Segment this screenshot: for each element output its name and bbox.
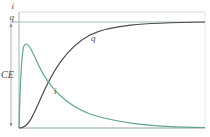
q-curve-label: q [91, 33, 96, 43]
y-top-label: i [12, 1, 15, 11]
ce-label: CE [1, 69, 14, 80]
asymptote-label: q [10, 12, 15, 22]
chart: i q CE q i [0, 0, 210, 137]
q-curve [19, 22, 205, 128]
i-curve-label: i [54, 86, 57, 96]
